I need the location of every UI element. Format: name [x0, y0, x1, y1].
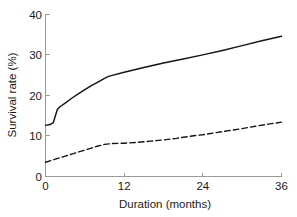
survival-rate-chart: 40 30 20 10 0 0 12 24 36 Duration (month… [0, 0, 297, 217]
x-tick-label-12: 12 [118, 180, 131, 192]
x-axis-title: Duration (months) [119, 198, 211, 210]
x-tick-label-36: 36 [275, 180, 288, 192]
y-tick-label-20: 20 [29, 90, 42, 102]
y-tick-label-40: 40 [29, 9, 42, 21]
y-tick-label-10: 10 [29, 130, 42, 142]
y-tick-label-30: 30 [29, 49, 42, 61]
x-tick-label-0: 0 [42, 180, 48, 192]
y-tick-label-0: 0 [36, 171, 42, 183]
y-axis-title: Survival rate (%) [6, 52, 18, 137]
x-tick-label-24: 24 [196, 180, 209, 192]
